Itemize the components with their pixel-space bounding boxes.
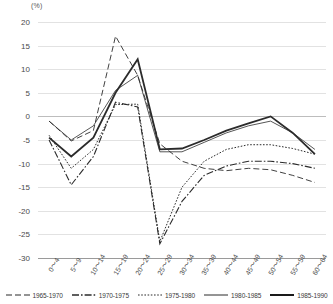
legend-item-1975-1980[interactable]: 1975-1980 [138,291,195,299]
legend-label: 1975-1980 [165,292,195,299]
y-tick-label: -5 [0,136,30,145]
legend: 1965-19701970-19751975-19801980-19851985… [0,288,333,302]
y-axis-unit-label: (%) [31,2,43,9]
series-line-1975-1980 [49,104,315,241]
y-tick-label: 15 [0,41,30,50]
legend-item-1985-1990[interactable]: 1985-1990 [270,291,327,299]
y-tick-label: -10 [0,159,30,168]
legend-label: 1970-1975 [99,292,129,299]
series-line-1985-1990 [49,59,315,156]
y-axis-tick-labels: 20151050-5-10-15-20-25-30 [0,22,34,258]
plot-area [38,22,326,258]
legend-swatch-1975-1980 [138,291,162,299]
y-tick-label: -25 [0,230,30,239]
legend-label: 1980-1985 [231,292,261,299]
legend-item-1970-1975[interactable]: 1970-1975 [72,291,129,299]
legend-swatch-1980-1985 [204,291,228,299]
y-tick-label: 10 [0,65,30,74]
y-tick-label: 20 [0,18,30,27]
legend-item-1980-1985[interactable]: 1980-1985 [204,291,261,299]
legend-swatch-1965-1970 [6,291,30,299]
y-tick-label: -15 [0,183,30,192]
legend-label: 1985-1990 [297,292,327,299]
y-tick-label: -30 [0,254,30,263]
legend-swatch-1970-1975 [72,291,96,299]
series-lines [38,22,326,258]
y-tick-label: 0 [0,112,30,121]
series-line-1965-1970 [49,36,315,182]
y-tick-label: -20 [0,206,30,215]
legend-swatch-1985-1990 [270,291,294,299]
line-chart: (%) 20151050-5-10-15-20-25-30 0～45～910～1… [0,0,333,304]
y-tick-label: 5 [0,88,30,97]
legend-item-1965-1970[interactable]: 1965-1970 [6,291,63,299]
legend-label: 1965-1970 [33,292,63,299]
